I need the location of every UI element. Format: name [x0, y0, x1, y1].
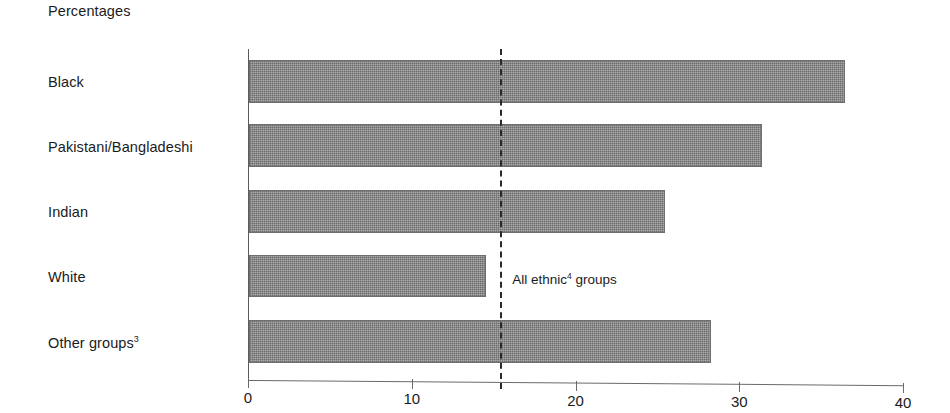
x-axis-tick-10	[412, 379, 413, 389]
x-axis-tick-30	[739, 382, 740, 392]
bar-pakistani-bangladeshi	[249, 124, 762, 167]
x-axis-tick-40	[903, 383, 904, 393]
category-label-superscript: 3	[134, 334, 139, 344]
category-label-black: Black	[48, 75, 84, 90]
reference-line-label-suffix: groups	[572, 272, 617, 287]
category-label-text: Black	[48, 74, 84, 90]
category-label-text: White	[48, 269, 86, 285]
bar-other-groups	[249, 320, 711, 363]
chart-title: Percentages	[48, 3, 131, 19]
x-axis-tick-label-10: 10	[403, 390, 420, 407]
x-axis-tick-label-20: 20	[567, 392, 584, 409]
category-label-other-groups: Other groups3	[48, 336, 139, 351]
x-axis-tick-20	[576, 381, 577, 391]
bar-chart: Percentages Black Pakistani/Bangladeshi …	[0, 0, 950, 413]
reference-line-label: All ethnic4 groups	[512, 272, 617, 287]
bar-white	[249, 255, 486, 297]
bar-indian	[249, 190, 665, 233]
bar-black	[249, 60, 845, 103]
category-label-pakistani-bangladeshi: Pakistani/Bangladeshi	[48, 140, 193, 155]
category-label-indian: Indian	[48, 205, 88, 220]
x-axis-tick-0	[248, 378, 249, 388]
plot-area: All ethnic4 groups	[248, 49, 903, 383]
x-axis-tick-label-0: 0	[244, 389, 252, 406]
category-label-text: Other groups	[48, 335, 134, 351]
category-label-text: Pakistani/Bangladeshi	[48, 139, 193, 155]
category-label-text: Indian	[48, 204, 88, 220]
x-axis-tick-label-40: 40	[895, 394, 912, 411]
x-axis-tick-label-30: 30	[731, 393, 748, 410]
reference-line-all-ethnic-groups	[500, 49, 502, 389]
category-label-white: White	[48, 270, 86, 285]
reference-line-label-prefix: All ethnic	[512, 272, 567, 287]
